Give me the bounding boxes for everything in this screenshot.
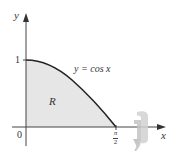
y-tick-label: 1: [15, 55, 20, 65]
x-axis-label: x: [161, 130, 166, 141]
y-axis-arrow-icon: [23, 13, 29, 22]
x-tick-label-pi-over-2: π 2: [113, 130, 118, 146]
x-tick-numerator: π: [114, 130, 118, 137]
figure-canvas: [0, 0, 175, 159]
cosine-region-figure: y 1 y = cos x R 0 π 2 x: [0, 0, 175, 159]
region-label: R: [49, 96, 56, 107]
curve-label: y = cos x: [74, 64, 110, 74]
x-tick-denominator: 2: [114, 139, 118, 146]
rotate-about-x-axis-icon: [133, 111, 148, 151]
origin-label: 0: [17, 130, 22, 140]
y-axis-label: y: [14, 10, 19, 21]
